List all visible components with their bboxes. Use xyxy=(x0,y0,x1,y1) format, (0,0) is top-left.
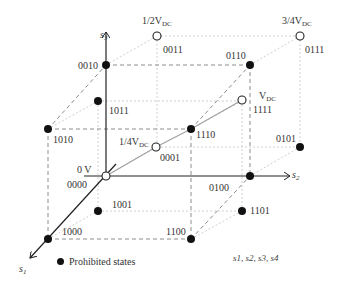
state-label-0111: 0111 xyxy=(305,45,324,55)
switch-variables-note: s1, s2, s3, s4 xyxy=(233,253,279,263)
legend: Prohibited states xyxy=(57,256,135,267)
state-label-1011: 1011 xyxy=(109,106,129,116)
legend-label: Prohibited states xyxy=(69,256,135,267)
voltage-label-0001: 1/4VDC xyxy=(119,137,149,149)
state-label-0100: 0100 xyxy=(209,183,229,193)
state-label-1010: 1010 xyxy=(53,135,73,145)
state-label-0101: 0101 xyxy=(276,134,296,144)
state-label-1111: 1111 xyxy=(253,105,272,115)
state-label-1101: 1101 xyxy=(250,206,270,216)
state-label-1001: 1001 xyxy=(112,200,132,210)
state-label-1000: 1000 xyxy=(62,227,82,237)
state-label-1110: 1110 xyxy=(196,130,215,140)
s3-axis-label: s3 xyxy=(100,30,107,42)
state-label-0000: 0000 xyxy=(67,180,87,190)
state-label-0001: 0001 xyxy=(160,153,180,163)
allowed-state-dots xyxy=(102,32,304,180)
state-label-1100: 1100 xyxy=(166,227,186,237)
state-label-0010: 0010 xyxy=(78,61,98,71)
prohibited-dot-icon xyxy=(57,258,64,265)
voltage-label-0011: 1/2VDC xyxy=(142,16,172,28)
s2-axis-label: s2 xyxy=(292,170,299,182)
voltage-label-0000: 0 V xyxy=(77,165,92,175)
state-label-0110: 0110 xyxy=(226,51,246,61)
state-label-0011: 0011 xyxy=(163,45,183,55)
s1-axis-label: s1 xyxy=(19,264,26,276)
voltage-label-0111: 3/4VDC xyxy=(282,16,312,28)
voltage-label-1111: VDC xyxy=(259,91,276,103)
